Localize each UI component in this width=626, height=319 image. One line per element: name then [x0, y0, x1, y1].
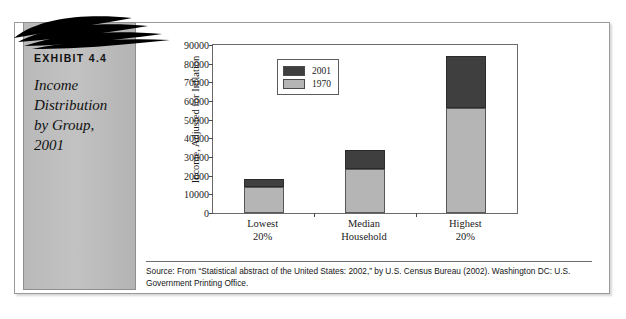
y-axis-tick-label: 20000 — [184, 170, 209, 181]
bar-chart: Income, Adjusted for Inflation 010000200… — [180, 38, 540, 253]
bar-segment-2001 — [345, 150, 385, 170]
exhibit-title: Income Distribution by Group, 2001 — [34, 75, 132, 155]
x-axis-tick — [314, 213, 315, 217]
legend-item: 1970 — [283, 77, 331, 90]
y-axis-tick-label: 0 — [204, 208, 209, 219]
x-axis-category-label: Highest20% — [449, 218, 482, 243]
x-axis-category-line: Household — [341, 231, 387, 244]
bar-group — [446, 45, 486, 213]
plot-area: 0100002000030000400005000060000700008000… — [212, 44, 518, 214]
legend-label: 2001 — [312, 66, 331, 76]
x-axis-tick — [416, 213, 417, 217]
exhibit-title-line: 2001 — [34, 135, 132, 155]
x-axis-category-line: Lowest — [247, 218, 278, 231]
exhibit-number-label: EXHIBIT 4.4 — [34, 52, 132, 64]
exhibit-title-line: by Group, — [34, 115, 132, 135]
y-axis-tick — [209, 64, 213, 65]
y-axis-tick-label: 70000 — [184, 77, 209, 88]
x-axis-category-line: Highest — [449, 218, 482, 231]
x-axis-category-line: 20% — [449, 231, 482, 244]
y-axis-tick-label: 50000 — [184, 114, 209, 125]
y-axis-tick-label: 40000 — [184, 133, 209, 144]
bar-segment-2001 — [244, 179, 284, 186]
y-axis-tick-label: 80000 — [184, 58, 209, 69]
y-axis-tick — [209, 194, 213, 195]
source-note: Source: From “Statistical abstract of th… — [146, 266, 598, 289]
y-axis-tick — [209, 82, 213, 83]
legend-swatch-2001 — [283, 66, 305, 76]
y-axis-tick — [209, 213, 213, 214]
bar-segment-2001 — [446, 56, 486, 107]
y-axis-tick-label: 60000 — [184, 96, 209, 107]
bar-segment-1970 — [244, 187, 284, 213]
y-axis-tick-label: 30000 — [184, 152, 209, 163]
bar-segment-1970 — [345, 169, 385, 213]
y-axis-tick-label: 10000 — [184, 189, 209, 200]
y-axis-tick — [209, 120, 213, 121]
bar-segment-1970 — [446, 108, 486, 213]
y-axis-tick-label: 90000 — [184, 40, 209, 51]
legend-item: 2001 — [283, 64, 331, 77]
y-axis-tick — [209, 176, 213, 177]
y-axis-tick — [209, 157, 213, 158]
y-axis-tick — [209, 101, 213, 102]
source-divider — [146, 261, 592, 262]
exhibit-title-line: Distribution — [34, 95, 132, 115]
exhibit-title-line: Income — [34, 75, 132, 95]
y-axis-tick — [209, 138, 213, 139]
chart-legend: 20011970 — [277, 59, 339, 95]
y-axis-tick — [209, 45, 213, 46]
legend-label: 1970 — [312, 79, 331, 89]
x-axis-category-label: MedianHousehold — [341, 218, 387, 243]
x-axis-category-line: 20% — [247, 231, 278, 244]
legend-swatch-1970 — [283, 79, 305, 89]
bar-group — [345, 45, 385, 213]
x-axis-category-line: Median — [341, 218, 387, 231]
x-axis-category-label: Lowest20% — [247, 218, 278, 243]
